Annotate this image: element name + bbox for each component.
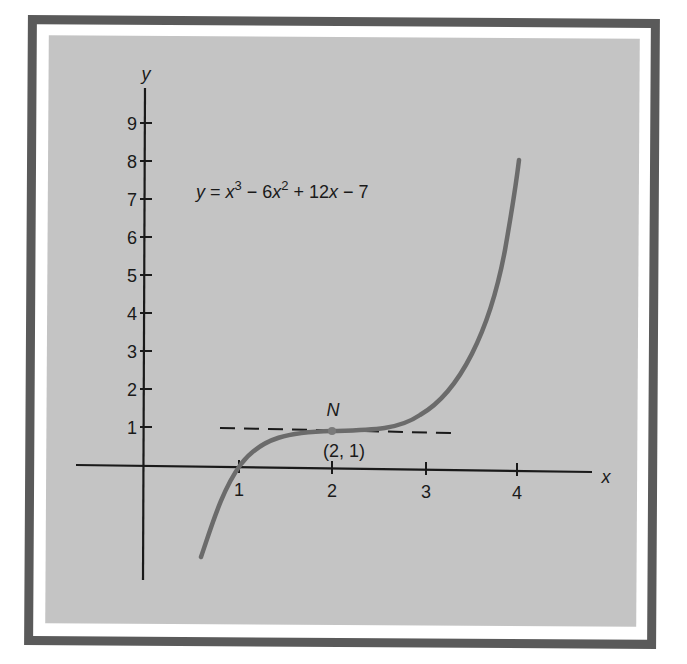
- cubic-curve: [201, 160, 519, 557]
- x-tick-label: 4: [512, 483, 522, 503]
- point-n-marker: [328, 427, 336, 435]
- y-tick-label: 8: [127, 152, 137, 172]
- x-tick-labels: 1 2 3 4: [234, 480, 522, 503]
- y-tick-label: 7: [127, 190, 137, 210]
- y-tick-label: 5: [127, 266, 137, 286]
- eq-sup1: 3: [235, 178, 242, 193]
- x-tick-label: 3: [421, 482, 431, 502]
- eq-plus12: + 12: [289, 182, 330, 202]
- y-tick-label: 1: [127, 418, 137, 438]
- x-axis-label: x: [601, 467, 612, 487]
- y-tick-label: 2: [127, 380, 137, 400]
- y-tick-label: 3: [127, 342, 137, 362]
- y-axis-label: y: [140, 64, 152, 84]
- equation-label: y = x3 − 6x2 + 12x − 7: [194, 178, 369, 202]
- eq-sup2: 2: [281, 178, 288, 193]
- eq-minus6: − 6: [242, 182, 273, 202]
- y-tick-label: 6: [127, 228, 137, 248]
- y-tick-label: 4: [127, 304, 137, 324]
- point-n-label: N: [327, 400, 341, 420]
- point-n-coords: (2, 1): [323, 441, 365, 461]
- x-axis: [76, 465, 592, 472]
- y-ticks: [140, 123, 152, 427]
- plot-svg: 9 8 7 6 5 4 3 2 1 1 2 3 4 y x N (2, 1) y…: [0, 0, 687, 664]
- y-tick-labels: 9 8 7 6 5 4 3 2 1: [127, 114, 137, 438]
- x-tick-label: 2: [327, 481, 337, 501]
- x-tick-label: 1: [234, 480, 244, 500]
- eq-equals: =: [205, 182, 226, 202]
- y-tick-label: 9: [127, 114, 137, 134]
- eq-minus7: − 7: [338, 182, 369, 202]
